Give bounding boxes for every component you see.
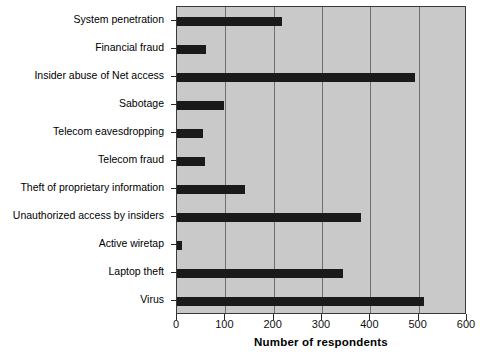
category-label: Telecom fraud xyxy=(98,154,164,165)
x-axis-tick-label: 300 xyxy=(301,318,341,331)
x-axis-tick-label: 500 xyxy=(398,318,438,331)
bar xyxy=(177,297,424,306)
bar-chart: System penetrationFinancial fraudInsider… xyxy=(0,0,480,362)
bar xyxy=(177,73,415,82)
category-label: Active wiretap xyxy=(99,238,164,249)
plot-area xyxy=(176,6,466,314)
category-label: Unauthorized access by insiders xyxy=(13,210,164,221)
bar xyxy=(177,269,343,278)
bar xyxy=(177,101,224,110)
x-axis-tick-label: 0 xyxy=(156,318,196,331)
gridline xyxy=(419,7,420,313)
x-axis-title: Number of respondents xyxy=(176,336,466,348)
category-label: Laptop theft xyxy=(109,266,164,277)
bar xyxy=(177,241,182,250)
x-axis-tick-label: 100 xyxy=(204,318,244,331)
gridline xyxy=(370,7,371,313)
category-label: Sabotage xyxy=(119,98,164,109)
bar xyxy=(177,185,245,194)
x-axis-tick-label: 400 xyxy=(349,318,389,331)
category-label: Telecom eavesdropping xyxy=(53,126,164,137)
bar xyxy=(177,157,205,166)
category-label: Theft of proprietary information xyxy=(20,182,164,193)
category-label: Insider abuse of Net access xyxy=(34,70,164,81)
category-label: Financial fraud xyxy=(95,42,164,53)
bar xyxy=(177,17,282,26)
bar xyxy=(177,129,203,138)
gridline xyxy=(225,7,226,313)
bar xyxy=(177,213,361,222)
gridline xyxy=(274,7,275,313)
y-axis-category-labels: System penetrationFinancial fraudInsider… xyxy=(0,0,172,362)
x-axis-tick-label: 200 xyxy=(253,318,293,331)
gridline xyxy=(322,7,323,313)
bar xyxy=(177,45,206,54)
category-label: Virus xyxy=(140,294,164,305)
x-axis-tick-label: 600 xyxy=(446,318,480,331)
category-label: System penetration xyxy=(74,14,164,25)
